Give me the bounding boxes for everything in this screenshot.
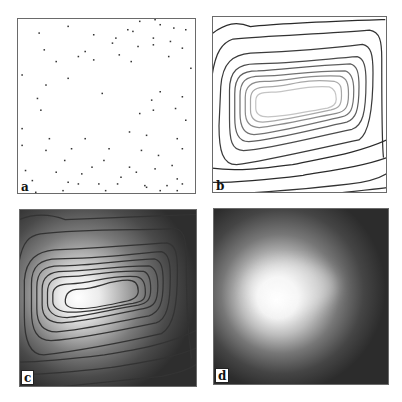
sample-point	[105, 190, 107, 192]
sample-point	[21, 128, 23, 130]
sample-point	[139, 113, 141, 115]
sample-point	[166, 185, 168, 187]
sample-point	[45, 150, 47, 152]
sample-point	[182, 96, 184, 98]
sample-point	[67, 182, 69, 184]
sample-point	[151, 99, 153, 101]
sample-point	[55, 171, 57, 173]
sample-point	[84, 51, 86, 53]
sample-point	[45, 84, 47, 86]
panel-c-contours-shaded: c	[19, 209, 197, 387]
sample-point	[40, 109, 42, 111]
sample-point	[168, 56, 170, 58]
sample-point	[158, 155, 160, 157]
sample-point	[32, 180, 34, 182]
sample-point	[182, 47, 184, 49]
sample-point	[64, 160, 66, 162]
sample-point	[84, 138, 86, 140]
sample-point	[44, 49, 46, 51]
sample-point	[81, 173, 83, 175]
sample-point	[185, 29, 187, 31]
sample-point	[98, 183, 100, 185]
sample-point	[159, 91, 161, 93]
sample-point	[62, 190, 64, 192]
sample-point	[55, 61, 57, 63]
sample-point	[176, 138, 178, 140]
sample-point	[25, 170, 27, 172]
shaded-contour-plot	[19, 209, 197, 387]
sample-point	[37, 98, 39, 100]
sample-point	[120, 176, 122, 178]
sample-point	[153, 37, 155, 39]
panel-d-density: d	[213, 208, 389, 385]
sample-point	[141, 150, 143, 152]
sample-point	[78, 183, 80, 185]
sample-point	[154, 19, 156, 21]
sample-point	[185, 119, 187, 121]
sample-point	[129, 131, 131, 133]
sample-point	[137, 46, 139, 48]
sample-point	[153, 109, 155, 111]
sample-point	[182, 148, 184, 150]
sample-point	[115, 37, 117, 39]
sample-point	[154, 168, 156, 170]
sample-point	[136, 171, 138, 173]
panel-label-b: b	[214, 179, 226, 192]
sample-point	[67, 78, 69, 80]
sample-point	[132, 31, 134, 33]
density-image	[213, 208, 389, 385]
sample-point	[103, 160, 105, 162]
panel-label-c: c	[21, 370, 34, 385]
sample-point	[127, 29, 129, 31]
panel-label-d: d	[215, 368, 229, 383]
sample-point	[159, 24, 161, 26]
sample-point	[173, 27, 175, 29]
sample-point	[112, 42, 114, 44]
sample-point	[139, 21, 141, 23]
contour-plot	[212, 16, 387, 193]
sample-point	[144, 185, 146, 187]
sample-point	[146, 187, 148, 189]
sample-point	[176, 178, 178, 180]
panel-label-a: a	[19, 180, 31, 193]
sample-point	[91, 166, 93, 168]
sample-point	[101, 93, 103, 95]
sample-point	[119, 54, 121, 56]
sample-point	[171, 165, 173, 167]
sample-point	[176, 190, 178, 192]
scatter-plot	[17, 18, 196, 194]
sample-point	[146, 135, 148, 137]
sample-point	[49, 138, 51, 140]
sample-point	[21, 74, 23, 76]
sample-point	[130, 61, 132, 63]
sample-point	[93, 59, 95, 61]
sample-point	[35, 192, 37, 194]
sample-point	[170, 41, 172, 43]
sample-point	[108, 148, 110, 150]
sample-point	[175, 108, 177, 110]
panel-b-contours: b	[212, 16, 387, 193]
sample-point	[67, 26, 69, 28]
sample-point	[153, 44, 155, 46]
sample-point	[159, 190, 161, 192]
sample-point	[38, 32, 40, 34]
sample-point	[93, 34, 95, 36]
sample-point	[129, 166, 131, 168]
sample-point	[71, 148, 73, 150]
sample-point	[78, 56, 80, 58]
sample-point	[182, 183, 184, 185]
sample-point	[117, 183, 119, 185]
panel-a-sample-points: a	[17, 18, 196, 194]
sample-point	[21, 145, 23, 147]
sample-point	[190, 68, 192, 70]
